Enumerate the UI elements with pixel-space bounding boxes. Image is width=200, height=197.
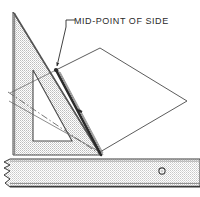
ruler-hole-shadow: [161, 170, 164, 173]
mid-point-marker: [54, 68, 58, 72]
ruler-body: [4, 159, 200, 187]
annotation-label: MID-POINT OF SIDE: [74, 16, 169, 26]
drawing-canvas: MID-POINT OF SIDE: [0, 0, 200, 197]
technical-drawing-figure: MID-POINT OF SIDE: [0, 0, 200, 197]
straightedge: [4, 159, 200, 187]
